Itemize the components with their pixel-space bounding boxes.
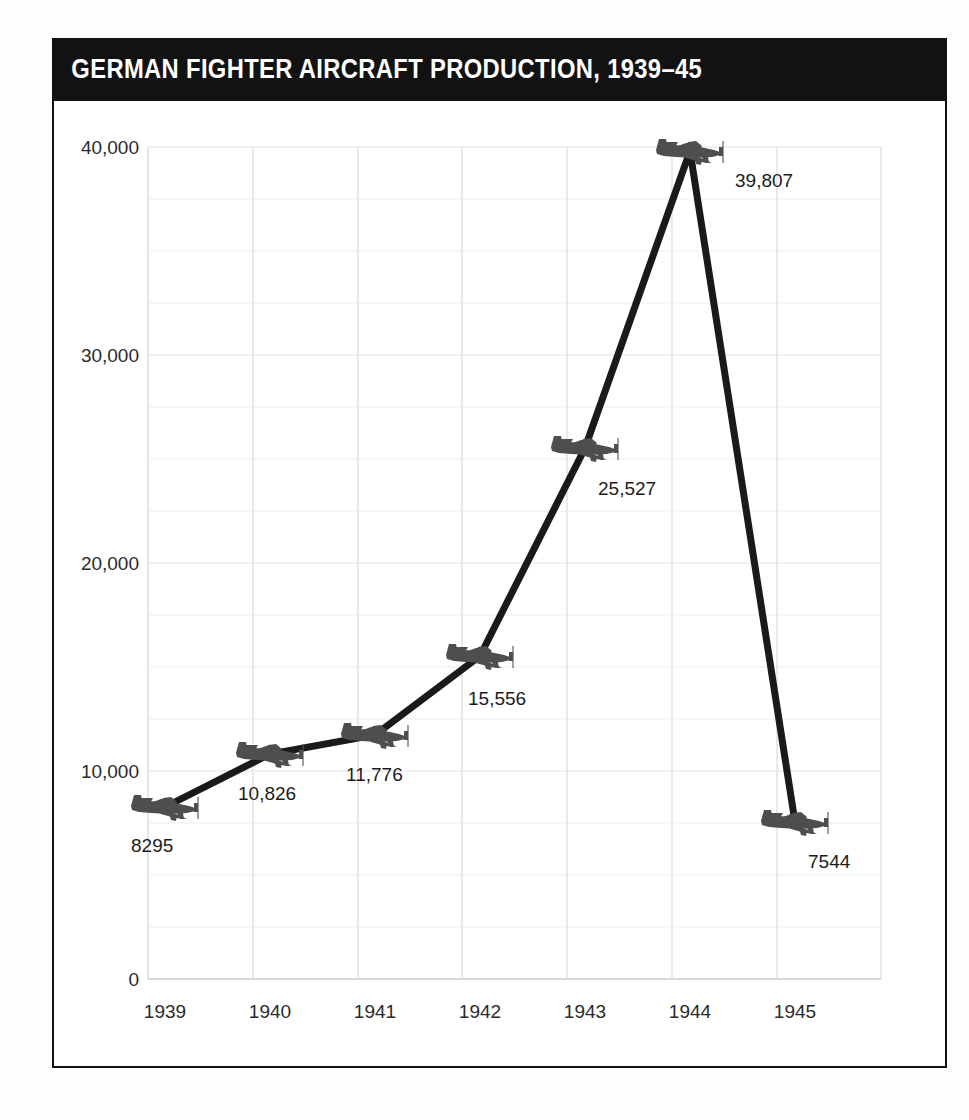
figure-canvas: GERMAN FIGHTER AIRCRAFT PRODUCTION, 1939… (0, 0, 969, 1120)
chart-title: GERMAN FIGHTER AIRCRAFT PRODUCTION, 1939… (52, 54, 702, 85)
chart-frame (52, 38, 947, 1068)
chart-title-bar: GERMAN FIGHTER AIRCRAFT PRODUCTION, 1939… (52, 38, 947, 101)
